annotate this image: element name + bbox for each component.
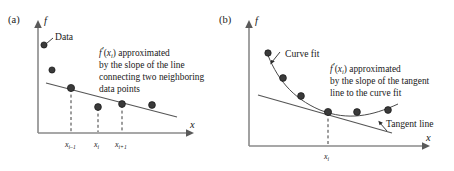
panel-b-x-axis-label: x	[425, 132, 431, 143]
panel-a-x-axis-label: x	[189, 119, 195, 130]
panel-a-tick-label: xi	[93, 140, 100, 150]
panel-b-data-point	[354, 109, 361, 116]
panel-b-tangent-callout-arrow-icon	[378, 121, 383, 126]
panel-a-data-callout-leader	[47, 38, 54, 44]
panel-b-y-axis-arrow-icon	[245, 20, 253, 28]
panel-a-annotation-line1: f′(xi) approximated	[99, 46, 170, 59]
panel-b-data-point	[265, 50, 271, 56]
panel-b-annotation-line2: by the slope of the tangent	[330, 76, 430, 86]
panel-a-data-point	[95, 104, 102, 111]
panel-b-data-point	[324, 108, 331, 115]
derivative-approximation-figure: (a) f x Data f′(xi) approximated by the …	[0, 0, 454, 171]
panel-a-tick-label: xi–1	[64, 140, 76, 150]
panel-a-annotation-line4: data points	[99, 84, 140, 94]
panel-b-tangent-callout: Tangent line	[386, 118, 434, 129]
panel-a-annotation-line3: connecting two neighboring	[99, 72, 204, 82]
panel-b-y-axis-label: f	[255, 15, 260, 26]
panel-a-label: (a)	[8, 14, 20, 26]
panel-b-tick-label: xi	[323, 152, 330, 162]
panel-b-data-point	[385, 107, 392, 114]
panel-a-y-axis-label: f	[44, 15, 49, 26]
panel-a-y-axis-arrow-icon	[34, 20, 42, 28]
panel-b-data-point	[298, 93, 305, 100]
panel-b-curve-callout-arrow-icon	[270, 60, 275, 65]
panel-b-x-axis-arrow-icon	[422, 142, 430, 150]
panel-a-tick-label: xi+1	[114, 140, 127, 150]
panel-a-data-point	[119, 101, 126, 108]
panel-b-annotation-line1: f′(xi) approximated	[330, 62, 401, 75]
panel-b-data-point	[280, 75, 287, 82]
panel-a-group: (a) f x Data f′(xi) approximated by the …	[8, 14, 204, 150]
panel-b-curve-callout-leader	[272, 52, 280, 62]
panel-a-data-point	[41, 42, 47, 48]
panel-b-annotation-line3: line to the curve fit	[330, 88, 402, 98]
panel-a-data-point	[67, 84, 74, 91]
panel-a-data-point	[49, 67, 55, 73]
panel-a-x-axis-arrow-icon	[186, 129, 194, 137]
panel-b-label: (b)	[219, 14, 232, 26]
panel-a-data-point	[149, 102, 156, 109]
panel-b-group: (b) f x Curve fit Tangent line f′(xi) ap…	[219, 14, 434, 162]
figure-canvas: (a) f x Data f′(xi) approximated by the …	[0, 0, 454, 171]
panel-a-annotation-line2: by the slope of the line	[99, 60, 185, 70]
panel-a-data-callout: Data	[55, 31, 74, 42]
panel-b-curve-callout: Curve fit	[285, 48, 320, 59]
